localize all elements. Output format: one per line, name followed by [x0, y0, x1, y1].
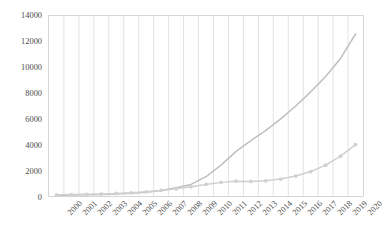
y-axis-tick-label: 14000: [21, 11, 42, 20]
x-axis-tick-label: 2015: [291, 199, 309, 217]
x-axis-tick-label: 2016: [306, 199, 324, 217]
series-marker: [189, 185, 193, 189]
x-axis-tick-label: 2003: [111, 199, 129, 217]
series-marker: [84, 192, 88, 196]
x-axis-tick-label: 2020: [366, 199, 384, 217]
x-axis-tick-label: 2004: [126, 199, 144, 217]
x-axis-tick-label: 2008: [186, 199, 204, 217]
x-axis-tick-label: 2014: [276, 199, 294, 217]
series-marker: [114, 192, 118, 196]
plot-area: [48, 15, 364, 197]
y-axis-labels: 02000400060008000100001200014000: [0, 15, 45, 197]
series-lines: [55, 34, 358, 196]
x-axis-tick-label: 2011: [231, 199, 249, 217]
x-axis-tick-label: 2009: [201, 199, 219, 217]
y-axis-tick-label: 4000: [25, 141, 42, 150]
y-axis-tick-label: 10000: [21, 63, 42, 72]
y-axis-tick-label: 12000: [21, 37, 42, 46]
x-axis-tick-label: 2005: [141, 199, 159, 217]
x-axis-tick-label: 2000: [65, 199, 83, 217]
series-marker: [55, 193, 59, 196]
series-marker: [234, 179, 238, 183]
y-axis-tick-label: 8000: [25, 89, 42, 98]
series-marker: [339, 154, 343, 158]
x-axis-tick-label: 2013: [261, 199, 279, 217]
x-axis-tick-label: 2002: [96, 199, 114, 217]
series-marker: [70, 193, 74, 196]
series-marker: [219, 180, 223, 184]
x-axis-tick-label: 2012: [246, 199, 264, 217]
y-axis-tick-label: 6000: [25, 115, 42, 124]
series-marker: [309, 170, 313, 174]
series-marker: [129, 191, 133, 195]
x-axis-labels: 2000200120022003200420052006200720082009…: [48, 199, 364, 243]
series-marker: [354, 143, 358, 147]
y-axis-tick-label: 0: [38, 193, 42, 202]
plot-svg: [49, 16, 363, 196]
x-axis-tick-label: 2007: [171, 199, 189, 217]
series-marker: [324, 163, 328, 167]
series-marker: [294, 174, 298, 178]
series-marker: [144, 190, 148, 194]
series-marker: [159, 189, 163, 193]
series-marker: [99, 192, 103, 196]
series-marker: [279, 177, 283, 181]
y-axis-tick-label: 2000: [25, 167, 42, 176]
x-axis-tick-label: 2001: [80, 199, 98, 217]
series-marker: [204, 183, 208, 187]
x-axis-tick-label: 2006: [156, 199, 174, 217]
series-marker: [264, 179, 268, 183]
gridlines-vertical: [64, 16, 348, 196]
series-marker: [174, 187, 178, 191]
series-marker: [249, 180, 253, 184]
